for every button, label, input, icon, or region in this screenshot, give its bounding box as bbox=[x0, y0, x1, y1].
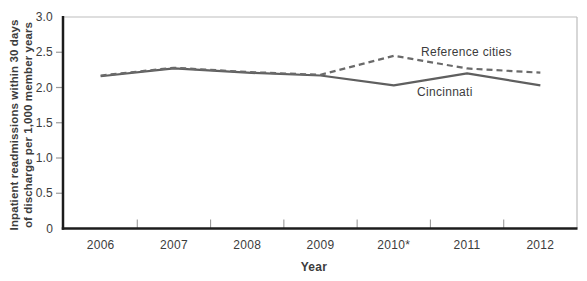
y-axis-tick-label: 2.5 bbox=[36, 45, 53, 59]
y-axis-tick-label: 1.0 bbox=[36, 151, 53, 165]
y-axis-tick-label: 2.0 bbox=[36, 81, 53, 95]
x-axis-tick-label: 2010* bbox=[377, 238, 410, 252]
x-axis-title: Year bbox=[301, 260, 328, 274]
x-axis-tick-label: 2012 bbox=[526, 238, 554, 252]
y-axis-tick-label: 3.0 bbox=[36, 10, 53, 24]
x-axis-tick-label: 2006 bbox=[87, 238, 115, 252]
y-axis-tick-label: 0 bbox=[46, 222, 53, 236]
x-axis-tick-label: 2009 bbox=[307, 238, 335, 252]
y-axis-title: Inpatient readmissions within 30 daysof … bbox=[8, 20, 34, 231]
series-label-reference-cities: Reference cities bbox=[421, 45, 512, 59]
y-axis-tick-label: 0.5 bbox=[36, 186, 53, 200]
readmissions-line-chart: 3.02.52.01.51.00.5020062007200820092010*… bbox=[0, 0, 587, 281]
y-axis-tick-label: 1.5 bbox=[36, 116, 53, 130]
x-axis-tick-label: 2008 bbox=[233, 238, 261, 252]
chart-canvas: 3.02.52.01.51.00.5020062007200820092010*… bbox=[0, 0, 587, 281]
x-axis-tick-label: 2011 bbox=[454, 238, 481, 252]
series-label-cincinnati: Cincinnati bbox=[417, 85, 473, 99]
x-axis-tick-label: 2007 bbox=[160, 238, 188, 252]
series-line-cincinnati bbox=[101, 68, 541, 85]
